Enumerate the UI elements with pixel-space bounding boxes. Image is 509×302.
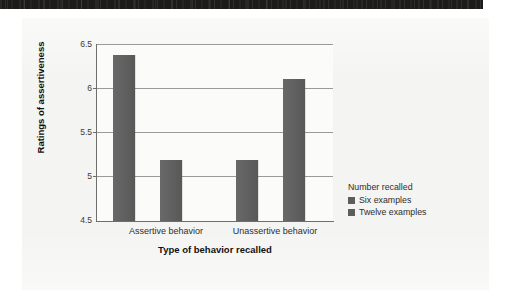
- y-tick-label-4.5: 4.5: [80, 216, 92, 225]
- bar-unassertive-behavior-twelve-examples: [283, 79, 305, 221]
- y-tick-mark-6: [93, 88, 97, 89]
- y-tick-label-6: 6: [87, 84, 92, 93]
- legend-label-twelve-examples: Twelve examples: [359, 207, 426, 217]
- y-tick-label-5.5: 5.5: [80, 128, 92, 137]
- category-label-unassertive: Unassertive behavior: [212, 226, 338, 236]
- plot-area: [97, 44, 333, 221]
- legend-title: Number recalled: [348, 182, 478, 192]
- bar-unassertive-behavior-six-examples: [236, 160, 258, 221]
- legend-item-six-examples[interactable]: Six examples: [348, 195, 478, 205]
- y-tick-label-6.5: 6.5: [80, 40, 92, 49]
- gridline-6.5: [97, 44, 333, 45]
- bar-assertive-behavior-six-examples: [113, 55, 135, 221]
- scan-artifact-banner: [0, 0, 483, 9]
- legend-swatch-six-examples: [348, 197, 355, 204]
- figure-root: 6.5 6 5.5 5 4.5 Assertive behavior Unass…: [0, 0, 509, 302]
- y-tick-mark-5.5: [93, 132, 97, 133]
- scan-noise-band-2: [0, 0, 483, 9]
- x-axis-title: Type of behavior recalled: [97, 244, 333, 255]
- bar-assertive-behavior-twelve-examples: [160, 160, 182, 221]
- legend-label-six-examples: Six examples: [359, 195, 411, 205]
- chart-legend: Number recalled Six examples Twelve exam…: [348, 182, 478, 217]
- category-label-assertive: Assertive behavior: [108, 226, 224, 236]
- legend-item-twelve-examples[interactable]: Twelve examples: [348, 207, 478, 217]
- y-tick-mark-5: [93, 176, 97, 177]
- y-axis-title: Ratings of assertiveness: [35, 28, 46, 168]
- legend-swatch-twelve-examples: [348, 209, 355, 216]
- x-axis-line: [96, 221, 334, 222]
- y-axis-line: [96, 44, 97, 222]
- y-tick-label-5: 5: [87, 172, 92, 181]
